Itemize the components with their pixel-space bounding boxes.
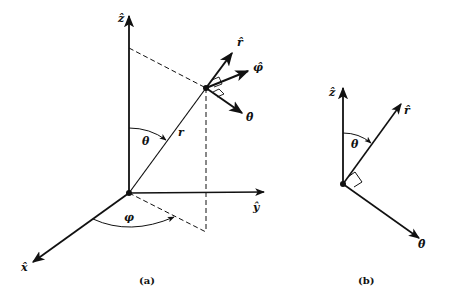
z-axis-label: ẑ	[117, 12, 125, 25]
theta-hat-label-b: θ̂	[418, 238, 426, 251]
panel-a: ẑ ŷ x̂ r θ φ r̂ φ̂ θ̂ (a)	[20, 12, 264, 286]
theta-label: θ	[142, 135, 150, 148]
radius-label: r	[178, 126, 185, 139]
theta-label-b: θ	[351, 138, 359, 151]
phi-label: φ	[124, 211, 134, 224]
theta-hat-vector-b	[343, 184, 419, 238]
x-axis	[33, 193, 129, 262]
x-axis-label: x̂	[20, 261, 28, 274]
panel-b: ẑ r̂ θ̂ θ (b)	[328, 86, 426, 286]
r-hat-label: r̂	[237, 36, 244, 49]
caption-a: (a)	[139, 275, 155, 286]
z-axis-label-b: ẑ	[328, 86, 336, 99]
caption-b: (b)	[358, 275, 374, 286]
dashed-z-projection	[129, 48, 206, 88]
phi-hat-label: φ̂	[253, 61, 263, 74]
radius-line	[129, 88, 206, 193]
theta-hat-label: θ̂	[246, 111, 254, 124]
y-axis-label: ŷ	[252, 201, 261, 214]
spherical-coordinates-figure: ẑ ŷ x̂ r θ φ r̂ φ̂ θ̂ (a) ẑ r̂ θ̂ θ (b)	[0, 0, 450, 298]
r-hat-label-b: r̂	[404, 104, 411, 117]
origin-dot-b	[340, 181, 346, 187]
origin-dot	[126, 190, 132, 196]
theta-hat-vector	[206, 88, 242, 113]
y-axis	[129, 192, 264, 193]
